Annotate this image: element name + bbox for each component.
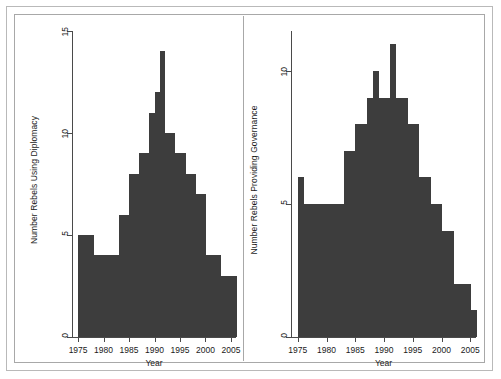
plot-area-right: Year 05101975198019851990199520002005 — [291, 31, 476, 338]
y-axis-tick-label: 0 — [279, 333, 289, 338]
histogram-bar — [470, 310, 476, 337]
y-axis-line-right — [291, 31, 292, 338]
x-axis-tick — [470, 338, 471, 342]
x-axis-tick-label: 2005 — [461, 345, 480, 355]
x-axis-title-left: Year — [72, 358, 236, 368]
x-axis-tick — [78, 338, 79, 342]
x-axis-tick-label: 1980 — [94, 345, 113, 355]
x-axis-tick-label: 1990 — [145, 345, 164, 355]
x-axis-tick — [442, 338, 443, 342]
plot-area-left: Year 0510151975198019851990199520002005 — [72, 31, 236, 338]
chart-panel-right: Number Rebels Providing Governance Year … — [244, 16, 485, 362]
x-axis-tick-label: 2000 — [196, 345, 215, 355]
x-axis-tick-label: 1985 — [346, 345, 365, 355]
x-axis-tick — [413, 338, 414, 342]
y-axis-tick-label: 10 — [279, 67, 289, 76]
x-axis-tick-label: 1975 — [69, 345, 88, 355]
y-axis-tick-label: 5 — [279, 200, 289, 205]
y-axis-tick-label: 5 — [60, 231, 70, 236]
x-axis-tick-label: 1975 — [288, 345, 307, 355]
x-axis-tick — [155, 338, 156, 342]
x-axis-title-right: Year — [291, 358, 476, 368]
x-axis-tick — [129, 338, 130, 342]
x-axis-tick-label: 2000 — [432, 345, 451, 355]
x-axis-tick — [355, 338, 356, 342]
x-axis-tick-label: 1995 — [403, 345, 422, 355]
histogram-bar — [231, 276, 237, 337]
x-axis-tick-label: 1985 — [120, 345, 139, 355]
chart-panel-left: Number Rebels Using Diplomacy Year 05101… — [16, 16, 243, 362]
x-axis-tick — [384, 338, 385, 342]
y-axis-tick-label: 15 — [60, 27, 70, 36]
x-axis-tick — [104, 338, 105, 342]
y-axis-tick-label: 0 — [60, 333, 70, 338]
y-axis-title-left: Number Rebels Using Diplomacy — [26, 30, 42, 330]
y-axis-title-right: Number Rebels Providing Governance — [246, 30, 262, 330]
figure-root: Number Rebels Using Diplomacy Year 05101… — [0, 0, 501, 379]
y-axis-line-left — [72, 31, 73, 338]
x-axis-tick-label: 1990 — [375, 345, 394, 355]
y-axis-tick-label: 10 — [60, 129, 70, 138]
x-axis-tick — [231, 338, 232, 342]
x-axis-tick — [298, 338, 299, 342]
x-axis-tick — [205, 338, 206, 342]
x-axis-tick — [180, 338, 181, 342]
x-axis-tick — [327, 338, 328, 342]
x-axis-tick-label: 1995 — [171, 345, 190, 355]
x-axis-tick-label: 2005 — [221, 345, 240, 355]
x-axis-tick-label: 1980 — [317, 345, 336, 355]
